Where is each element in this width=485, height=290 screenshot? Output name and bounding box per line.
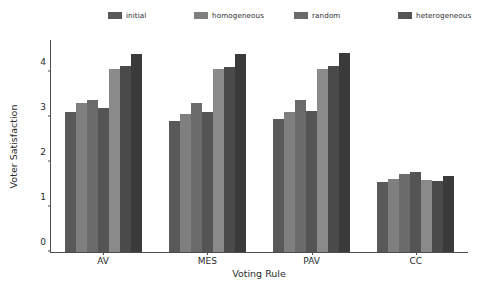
bar: [213, 69, 224, 252]
y-axis-tick-label: 1: [40, 192, 46, 202]
bar: [169, 121, 180, 252]
legend-entry: random: [294, 12, 398, 19]
legend-swatch-icon: [194, 12, 208, 19]
bar: [443, 176, 454, 252]
legend-label: heterogeneous: [416, 12, 471, 19]
bar: [328, 66, 339, 252]
y-axis-label: Voter Satisfaction: [8, 40, 20, 253]
bar-group-bars: [364, 40, 468, 252]
bar: [377, 182, 388, 252]
bar: [399, 174, 410, 252]
y-axis-tick-label: 2: [40, 147, 46, 157]
chart-legend: initialhomogeneousrandomheterogeneousite…: [108, 10, 408, 22]
x-axis-tick-label: MES: [155, 256, 259, 266]
x-axis-tick-mark: [207, 252, 208, 255]
bar: [273, 119, 284, 252]
legend-label: random: [312, 12, 340, 19]
bar-group-bars: [51, 40, 155, 252]
bar: [235, 54, 246, 252]
legend-swatch-icon: [108, 12, 122, 19]
x-axis-tick-mark: [312, 252, 313, 255]
y-axis-tick-label: 4: [40, 57, 46, 67]
legend-swatch-icon: [294, 12, 308, 19]
bar-chart-figure: initialhomogeneousrandomheterogeneousite…: [0, 0, 485, 290]
y-axis-label-text: Voter Satisfaction: [9, 105, 20, 189]
bar: [87, 100, 98, 252]
x-axis-tick-label: CC: [364, 256, 468, 266]
bar: [109, 69, 120, 252]
bar: [432, 181, 443, 252]
legend-entry: initial: [108, 12, 194, 19]
x-axis-label-text: Voting Rule: [232, 268, 286, 279]
y-axis-tick-label: 3: [40, 102, 46, 112]
bar-group: CC: [364, 40, 468, 252]
x-axis-label: Voting Rule: [50, 268, 468, 279]
bar: [306, 111, 317, 252]
bar: [131, 54, 142, 252]
bar-group: PAV: [260, 40, 364, 252]
bar-group: AV: [51, 40, 155, 252]
bar: [98, 108, 109, 252]
bar: [224, 67, 235, 252]
bar-group: MES: [155, 40, 259, 252]
legend-label: initial: [126, 12, 146, 19]
legend-entry: heterogeneous: [398, 12, 485, 19]
legend-swatch-icon: [398, 12, 412, 19]
x-axis-tick-mark: [103, 252, 104, 255]
bar-group-bars: [155, 40, 259, 252]
bar: [76, 103, 87, 252]
bar: [339, 53, 350, 252]
legend-label: homogeneous: [212, 12, 264, 19]
bar: [284, 112, 295, 252]
bar-group-bars: [260, 40, 364, 252]
bar: [410, 172, 421, 252]
bar: [180, 114, 191, 252]
plot-frame: 01234AVMESPAVCC: [50, 40, 468, 253]
plot-area: 01234AVMESPAVCC: [51, 40, 468, 252]
bar: [317, 69, 328, 252]
bar: [65, 112, 76, 252]
bar: [120, 66, 131, 252]
bar: [388, 179, 399, 252]
x-axis-tick-label: AV: [51, 256, 155, 266]
y-axis-tick-label: 0: [40, 237, 46, 247]
bar: [421, 180, 432, 252]
bar: [202, 112, 213, 252]
bar: [191, 103, 202, 252]
bar: [295, 100, 306, 252]
x-axis-tick-label: PAV: [260, 256, 364, 266]
x-axis-tick-mark: [416, 252, 417, 255]
legend-entry: homogeneous: [194, 12, 294, 19]
